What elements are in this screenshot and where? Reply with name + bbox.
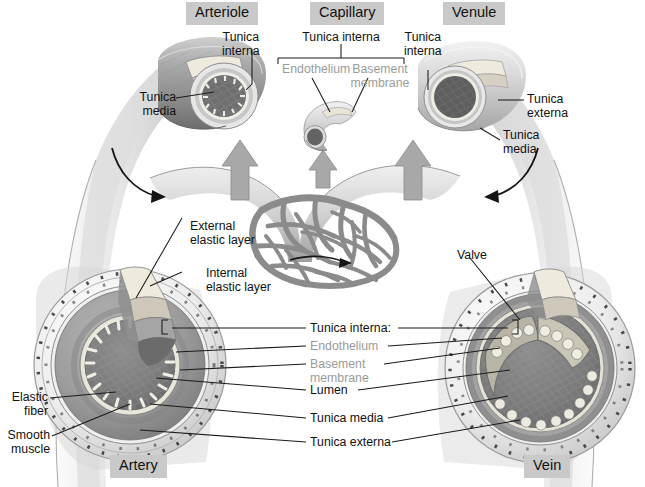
callout-capillary-basement-membrane: Basement membrane bbox=[349, 62, 411, 91]
label-venule: Venule bbox=[443, 2, 505, 25]
callout-venule-tunica-externa: Tunica externa bbox=[527, 92, 568, 121]
capillary-magnified bbox=[304, 102, 356, 151]
callout-venule-tunica-media: Tunica media bbox=[503, 128, 539, 157]
callout-elastic-fiber: Elastic fiber bbox=[2, 390, 48, 419]
callout-center-tunica-externa: Tunica externa bbox=[310, 435, 391, 449]
magnify-arrow-capillary bbox=[309, 150, 337, 188]
callout-center-lumen: Lumen bbox=[310, 383, 348, 397]
callout-valve: Valve bbox=[457, 248, 487, 262]
callout-capillary-endothelium: Endothelium bbox=[282, 62, 350, 76]
callout-venule-tunica-interna: Tunica interna bbox=[404, 30, 442, 59]
callout-external-elastic-layer: External elastic layer bbox=[190, 219, 255, 248]
callout-internal-elastic-layer: Internal elastic layer bbox=[206, 266, 271, 295]
callout-capillary-tunica-interna: Tunica interna bbox=[300, 30, 382, 44]
callout-smooth-muscle: Smooth muscle bbox=[0, 428, 50, 457]
label-vein: Vein bbox=[524, 455, 570, 478]
callout-center-tunica-media: Tunica media bbox=[310, 411, 383, 425]
callout-arteriole-tunica-interna: Tunica interna bbox=[222, 30, 260, 59]
callout-arteriole-tunica-media: Tunica media bbox=[122, 90, 176, 119]
vein-cross-section bbox=[438, 267, 635, 470]
callout-center-basement-membrane: Basement membrane bbox=[310, 357, 369, 386]
label-artery: Artery bbox=[110, 455, 167, 478]
figure-canvas: Arteriole Capillary Venule Artery Vein T… bbox=[0, 0, 645, 487]
label-arteriole: Arteriole bbox=[186, 2, 258, 25]
artery-cross-section bbox=[34, 267, 226, 470]
callout-center-tunica-interna: Tunica interna: bbox=[310, 321, 391, 335]
callout-center-endothelium: Endothelium bbox=[310, 339, 378, 353]
label-capillary: Capillary bbox=[310, 2, 384, 25]
